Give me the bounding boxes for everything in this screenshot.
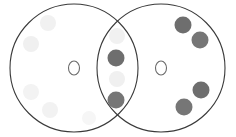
faint-point xyxy=(109,71,125,87)
dark-point-overlap xyxy=(108,92,125,109)
faint-point xyxy=(40,15,56,31)
dark-point-right xyxy=(175,17,192,34)
venn-diagram-figure xyxy=(0,0,236,137)
faint-point xyxy=(82,111,96,125)
venn-canvas xyxy=(0,0,236,137)
faint-point xyxy=(109,28,125,44)
dark-point-overlap xyxy=(108,50,125,67)
faint-point xyxy=(23,36,39,52)
faint-point xyxy=(23,84,39,100)
dark-point-right xyxy=(176,99,193,116)
dark-point-right xyxy=(193,82,210,99)
faint-point xyxy=(42,102,58,118)
dark-point-right xyxy=(192,32,209,49)
